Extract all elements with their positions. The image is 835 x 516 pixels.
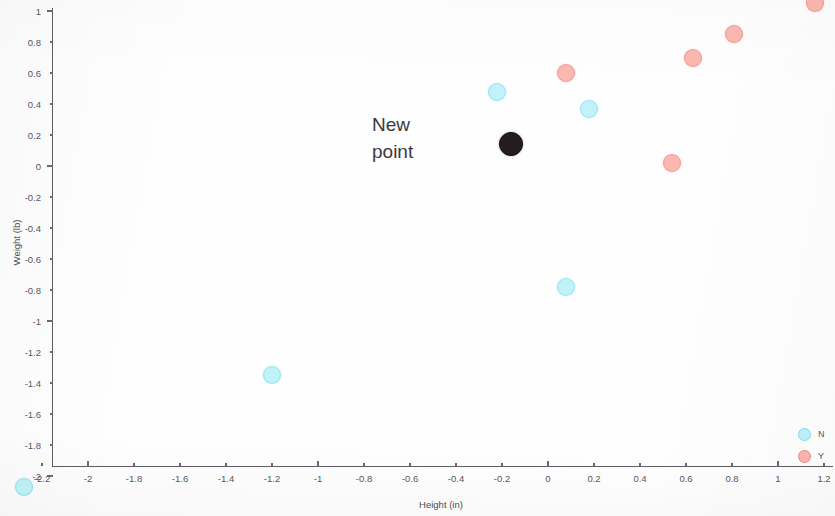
y-tick-mark: [50, 41, 53, 42]
scan-texture-overlay: [0, 0, 835, 516]
y-tick-label: 0.2: [0, 130, 41, 141]
x-tick-mark: [501, 463, 502, 466]
x-tick-mark: [409, 463, 410, 466]
y-tick-label: -1.6: [0, 409, 41, 420]
data-point-y[interactable]: [557, 64, 575, 82]
x-tick-mark: [777, 461, 778, 467]
data-point-n[interactable]: [15, 478, 33, 496]
x-tick-label: 0: [545, 473, 550, 484]
y-tick-mark: [50, 351, 53, 352]
x-tick-label: 0.6: [679, 473, 692, 484]
legend-item-n[interactable]: N: [798, 423, 825, 445]
y-tick-label: -1.8: [0, 440, 41, 451]
x-tick-label: 0.4: [633, 473, 646, 484]
x-tick-mark: [271, 463, 272, 466]
x-tick-label: 1: [775, 473, 780, 484]
legend-item-label: Y: [818, 451, 824, 461]
x-tick-label: -0.4: [448, 473, 464, 484]
x-axis-line: [52, 466, 833, 467]
data-point-y[interactable]: [806, 0, 824, 12]
y-tick-label: 0.4: [0, 99, 41, 110]
annotation-line-2: point: [372, 139, 413, 166]
y-tick-mark: [47, 320, 53, 321]
data-point-y[interactable]: [725, 25, 743, 43]
x-tick-label: -1.6: [172, 473, 188, 484]
x-tick-label: -2: [84, 473, 92, 484]
x-tick-mark: [41, 463, 42, 466]
x-tick-label: -0.6: [402, 473, 418, 484]
data-point-y[interactable]: [663, 154, 681, 172]
y-tick-mark: [47, 10, 53, 11]
x-tick-mark: [363, 463, 364, 466]
data-point-n[interactable]: [580, 100, 598, 118]
x-tick-label: -0.2: [494, 473, 510, 484]
y-tick-label: 0.8: [0, 37, 41, 48]
y-tick-label: 1: [0, 6, 41, 17]
data-point-n[interactable]: [263, 366, 281, 384]
x-tick-label: 0.2: [587, 473, 600, 484]
legend: NY: [798, 423, 825, 467]
legend-swatch-icon: [798, 450, 811, 463]
y-tick-label: -1.4: [0, 378, 41, 389]
x-tick-label: -0.8: [356, 473, 372, 484]
data-point-n[interactable]: [488, 83, 506, 101]
y-axis-line: [52, 8, 53, 466]
x-tick-mark: [731, 463, 732, 466]
y-tick-label: 0: [0, 161, 41, 172]
y-tick-label: 0.6: [0, 68, 41, 79]
x-tick-mark: [593, 463, 594, 466]
y-tick-mark: [50, 103, 53, 104]
x-tick-label: -1.4: [218, 473, 234, 484]
x-tick-label: -1.2: [264, 473, 280, 484]
y-tick-mark: [50, 72, 53, 73]
x-tick-mark: [225, 463, 226, 466]
y-tick-mark: [47, 165, 53, 166]
x-tick-mark: [87, 461, 88, 467]
scatter-plot-figure: 10.80.60.40.20-0.2-0.4-0.6-0.8-1-1.2-1.4…: [0, 0, 835, 516]
data-point-y[interactable]: [684, 49, 702, 67]
y-tick-label: -1.2: [0, 347, 41, 358]
y-tick-mark: [50, 258, 53, 259]
x-tick-label: -2.2: [34, 473, 50, 484]
x-tick-mark: [455, 463, 456, 466]
legend-swatch-icon: [798, 428, 811, 441]
y-tick-mark: [50, 444, 53, 445]
x-tick-mark: [179, 463, 180, 466]
new-point-annotation: New point: [372, 112, 413, 166]
data-point-n[interactable]: [557, 278, 575, 296]
y-tick-label: -0.2: [0, 192, 41, 203]
x-tick-label: -1: [314, 473, 322, 484]
y-tick-label: -0.8: [0, 285, 41, 296]
x-tick-mark: [685, 463, 686, 466]
x-tick-mark: [547, 461, 548, 467]
y-tick-mark: [50, 382, 53, 383]
new-point-marker[interactable]: [499, 132, 523, 156]
y-tick-mark: [50, 196, 53, 197]
x-tick-mark: [133, 463, 134, 466]
annotation-line-1: New: [372, 112, 413, 139]
legend-item-y[interactable]: Y: [798, 445, 825, 467]
y-axis-title: Weight (lb): [11, 213, 22, 273]
y-tick-label: -1: [0, 316, 41, 327]
x-tick-label: 0.8: [725, 473, 738, 484]
x-tick-mark: [639, 463, 640, 466]
x-tick-label: -1.8: [126, 473, 142, 484]
y-tick-mark: [50, 227, 53, 228]
y-tick-mark: [50, 413, 53, 414]
legend-item-label: N: [818, 429, 825, 439]
y-tick-mark: [50, 289, 53, 290]
x-tick-mark: [317, 461, 318, 467]
x-axis-title: Height (in): [419, 499, 463, 510]
y-tick-mark: [50, 134, 53, 135]
x-tick-label: 1.2: [817, 473, 830, 484]
